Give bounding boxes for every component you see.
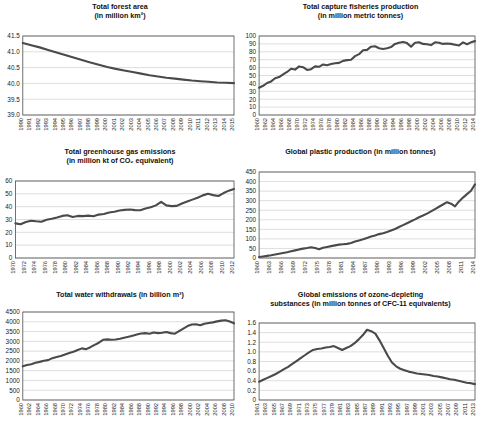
chart-title-ozone-depleting: Global emissions of ozone-depleting subs… — [240, 288, 481, 308]
svg-text:100: 100 — [245, 235, 256, 242]
svg-text:1972: 1972 — [68, 403, 74, 416]
plot-ozone-depleting: 00.20.40.60.81.01.21.41.6196119631965196… — [240, 319, 481, 430]
svg-text:1984: 1984 — [350, 118, 356, 131]
svg-text:1973: 1973 — [304, 403, 310, 416]
svg-text:400: 400 — [245, 178, 256, 185]
svg-text:1987: 1987 — [362, 261, 368, 274]
svg-text:1.4: 1.4 — [247, 329, 256, 336]
svg-text:0: 0 — [16, 396, 20, 403]
svg-text:1969: 1969 — [290, 261, 296, 274]
svg-text:1991: 1991 — [379, 403, 385, 416]
svg-text:1963: 1963 — [262, 403, 268, 416]
svg-text:1995: 1995 — [60, 118, 66, 131]
svg-text:1976: 1976 — [42, 261, 48, 274]
svg-text:1994: 1994 — [161, 403, 167, 416]
svg-text:1982: 1982 — [111, 403, 117, 416]
svg-text:1974: 1974 — [31, 261, 37, 274]
svg-text:1994: 1994 — [135, 261, 141, 274]
svg-text:1962: 1962 — [26, 403, 32, 416]
svg-text:1996: 1996 — [398, 261, 404, 274]
svg-text:1966: 1966 — [278, 261, 284, 274]
svg-text:1983: 1983 — [345, 403, 351, 416]
svg-text:1990: 1990 — [374, 261, 380, 274]
svg-text:1968: 1968 — [286, 118, 292, 131]
svg-text:1969: 1969 — [287, 403, 293, 416]
plot-forest-area: 39.039.540.040.541.041.51990199119921993… — [0, 32, 240, 145]
svg-text:350: 350 — [245, 187, 256, 194]
svg-text:1962: 1962 — [262, 118, 268, 131]
svg-text:2012: 2012 — [204, 118, 210, 131]
svg-text:1977: 1977 — [321, 403, 327, 416]
svg-text:41.5: 41.5 — [7, 32, 20, 39]
svg-text:1963: 1963 — [266, 261, 272, 274]
svg-text:1996: 1996 — [170, 403, 176, 416]
svg-text:1980: 1980 — [62, 261, 68, 274]
svg-text:1976: 1976 — [318, 118, 324, 131]
svg-text:1968: 1968 — [52, 403, 58, 416]
svg-text:0.6: 0.6 — [247, 367, 256, 374]
svg-text:1986: 1986 — [128, 403, 134, 416]
svg-text:200: 200 — [245, 216, 256, 223]
svg-text:150: 150 — [245, 226, 256, 233]
svg-text:2003: 2003 — [428, 403, 434, 416]
svg-text:60: 60 — [5, 177, 13, 184]
svg-text:2010: 2010 — [219, 261, 225, 274]
svg-text:1972: 1972 — [302, 261, 308, 274]
svg-text:39.0: 39.0 — [7, 111, 20, 118]
svg-text:41.0: 41.0 — [7, 48, 20, 55]
svg-text:1998: 1998 — [406, 118, 412, 131]
svg-text:250: 250 — [245, 207, 256, 214]
svg-text:10: 10 — [249, 103, 257, 110]
svg-text:2015: 2015 — [229, 118, 235, 131]
svg-text:1975: 1975 — [314, 261, 320, 274]
svg-text:1500: 1500 — [6, 367, 21, 374]
svg-text:1996: 1996 — [68, 118, 74, 131]
svg-text:1980: 1980 — [102, 403, 108, 416]
chart-panel-plastic-production: Global plastic production (in million to… — [240, 145, 481, 288]
svg-text:1986: 1986 — [358, 118, 364, 131]
svg-text:90: 90 — [249, 40, 257, 47]
svg-text:2013: 2013 — [470, 403, 476, 416]
svg-text:1986: 1986 — [94, 261, 100, 274]
svg-text:2005: 2005 — [437, 403, 443, 416]
svg-text:0.2: 0.2 — [247, 387, 256, 394]
svg-text:60: 60 — [249, 64, 257, 71]
svg-text:50: 50 — [5, 190, 13, 197]
svg-text:0.8: 0.8 — [247, 358, 256, 365]
svg-text:0.4: 0.4 — [247, 377, 256, 384]
svg-text:300: 300 — [245, 197, 256, 204]
svg-text:2012: 2012 — [462, 118, 468, 131]
svg-text:2008: 2008 — [446, 261, 452, 274]
svg-text:500: 500 — [9, 387, 20, 394]
svg-text:1961: 1961 — [254, 403, 260, 416]
svg-text:1978: 1978 — [326, 261, 332, 274]
svg-text:2500: 2500 — [6, 347, 21, 354]
svg-text:1999: 1999 — [410, 261, 416, 274]
svg-text:2014: 2014 — [470, 261, 476, 274]
svg-text:40.5: 40.5 — [7, 64, 20, 71]
svg-text:1989: 1989 — [370, 403, 376, 416]
svg-text:2010: 2010 — [187, 118, 193, 131]
svg-text:1966: 1966 — [43, 403, 49, 416]
svg-text:1999: 1999 — [94, 118, 100, 131]
svg-text:1972: 1972 — [21, 261, 27, 274]
svg-text:1992: 1992 — [153, 403, 159, 416]
svg-text:4000: 4000 — [6, 318, 21, 325]
svg-text:1981: 1981 — [338, 261, 344, 274]
svg-text:1992: 1992 — [382, 118, 388, 131]
charts-grid: Total forest area (in million km²) 39.03… — [0, 0, 481, 430]
svg-text:1999: 1999 — [412, 403, 418, 416]
svg-text:1996: 1996 — [398, 118, 404, 131]
svg-text:2014: 2014 — [221, 118, 227, 131]
svg-text:1960: 1960 — [18, 403, 24, 416]
svg-text:1990: 1990 — [115, 261, 121, 274]
svg-text:4500: 4500 — [6, 308, 21, 315]
svg-text:40: 40 — [249, 80, 257, 87]
svg-text:1990: 1990 — [145, 403, 151, 416]
svg-text:1960: 1960 — [254, 261, 260, 274]
chart-panel-ozone-depleting: Global emissions of ozone-depleting subs… — [240, 288, 481, 430]
svg-text:2010: 2010 — [454, 118, 460, 131]
svg-text:2011: 2011 — [458, 261, 464, 273]
svg-text:450: 450 — [245, 168, 256, 175]
svg-text:1964: 1964 — [35, 403, 41, 416]
